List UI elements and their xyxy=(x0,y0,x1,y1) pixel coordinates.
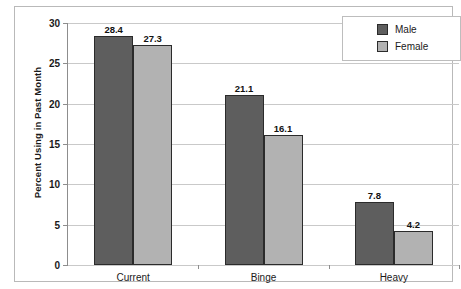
bar-value-label: 28.4 xyxy=(104,24,123,35)
y-tick-mark xyxy=(63,23,68,24)
x-tick-mark xyxy=(459,265,460,269)
legend-swatch-female-icon xyxy=(377,41,388,52)
gridline xyxy=(68,265,459,266)
y-tick-label: 25 xyxy=(49,58,60,69)
bar-value-label: 21.1 xyxy=(235,83,254,94)
legend-label-female: Female xyxy=(395,41,428,52)
y-tick-label: 5 xyxy=(54,219,60,230)
bar-value-label: 4.2 xyxy=(407,219,420,230)
bar-value-label: 27.3 xyxy=(143,33,162,44)
x-tick-mark xyxy=(329,265,330,269)
y-tick-mark xyxy=(63,184,68,185)
bar-binge-male: 21.1 xyxy=(225,95,264,265)
x-tick-mark xyxy=(198,265,199,269)
bar-current-female: 27.3 xyxy=(133,45,172,265)
y-tick-label: 30 xyxy=(49,18,60,29)
y-tick-label: 0 xyxy=(54,260,60,271)
y-tick-label: 10 xyxy=(49,179,60,190)
bar-value-label: 16.1 xyxy=(274,123,293,134)
legend-item-female: Female xyxy=(377,38,460,55)
y-tick-label: 15 xyxy=(49,139,60,150)
y-axis-title: Percent Using in Past Month xyxy=(32,43,43,223)
y-tick-mark xyxy=(63,265,68,266)
legend: Male Female xyxy=(342,16,461,61)
x-axis-label-binge: Binge xyxy=(251,272,277,283)
x-axis-label-current: Current xyxy=(116,272,149,283)
bar-heavy-male: 7.8 xyxy=(355,202,394,265)
legend-item-male: Male xyxy=(377,21,460,38)
legend-label-male: Male xyxy=(395,24,417,35)
bar-current-male: 28.4 xyxy=(94,36,133,265)
bar-value-label: 7.8 xyxy=(368,190,381,201)
y-tick-mark xyxy=(63,104,68,105)
y-tick-mark xyxy=(63,63,68,64)
legend-swatch-male-icon xyxy=(377,24,388,35)
x-axis-label-heavy: Heavy xyxy=(380,272,408,283)
y-tick-label: 20 xyxy=(49,98,60,109)
chart-frame: Percent Using in Past Month 051015202530… xyxy=(14,6,453,282)
bar-binge-female: 16.1 xyxy=(264,135,303,265)
y-tick-mark xyxy=(63,144,68,145)
bar-heavy-female: 4.2 xyxy=(394,231,433,265)
y-tick-mark xyxy=(63,225,68,226)
